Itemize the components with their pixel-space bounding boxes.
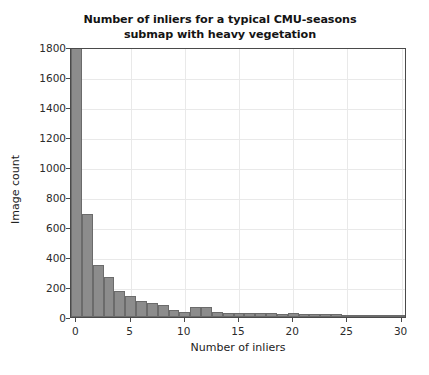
x-axis-tick-label: 30 <box>381 325 421 337</box>
histogram-bar <box>299 314 310 317</box>
x-axis-tick-label: 0 <box>55 325 95 337</box>
histogram-bar <box>234 313 245 317</box>
histogram-bar <box>136 301 147 317</box>
histogram-bar <box>114 291 125 317</box>
histogram-bar <box>244 313 255 317</box>
histogram-bar <box>309 314 320 317</box>
y-axis-tick-label: 1600 <box>8 72 66 84</box>
histogram-bar <box>331 314 342 317</box>
histogram-bar <box>374 315 385 317</box>
x-axis-tick-label: 15 <box>218 325 258 337</box>
histogram-bar <box>158 305 169 317</box>
histogram-bar <box>212 312 223 317</box>
figure-canvas: Number of inliers for a typical CMU-seas… <box>0 0 429 375</box>
histogram-bar <box>266 313 277 317</box>
histogram-bar <box>364 315 375 317</box>
histogram-bar <box>179 312 190 317</box>
histogram-bars <box>71 49 405 317</box>
histogram-bar <box>385 315 396 317</box>
x-axis-tick-mark <box>75 318 76 322</box>
x-axis-tick-label: 20 <box>272 325 312 337</box>
y-axis-tick-label: 0 <box>8 312 66 324</box>
histogram-bar <box>223 313 234 318</box>
histogram-bar <box>190 307 201 318</box>
y-axis-tick-label: 400 <box>8 252 66 264</box>
histogram-bar <box>320 314 331 317</box>
histogram-bar <box>342 315 353 317</box>
y-axis-tick-mark <box>66 318 70 319</box>
histogram-bar <box>104 277 115 317</box>
histogram-bar <box>255 313 266 318</box>
histogram-bar <box>288 313 299 317</box>
y-axis-label: Image count <box>9 130 22 250</box>
x-axis-tick-label: 5 <box>110 325 150 337</box>
plot-area <box>70 48 406 318</box>
x-axis-tick-mark <box>346 318 347 322</box>
histogram-bar <box>125 296 136 317</box>
histogram-bar <box>201 307 212 318</box>
histogram-bar <box>147 303 158 317</box>
histogram-bar <box>82 214 93 318</box>
chart-title-line-2: submap with heavy vegetation <box>60 28 380 43</box>
chart-title: Number of inliers for a typical CMU-seas… <box>60 13 380 42</box>
y-axis-tick-label: 200 <box>8 282 66 294</box>
histogram-bar <box>396 315 406 317</box>
y-axis-tick-label: 1400 <box>8 102 66 114</box>
x-axis-tick-mark <box>130 318 131 322</box>
histogram-bar <box>277 314 288 317</box>
y-axis-tick-label: 1800 <box>8 42 66 54</box>
x-axis-tick-mark <box>401 318 402 322</box>
histogram-bar <box>353 315 364 317</box>
x-axis-label: Number of inliers <box>70 341 406 354</box>
histogram-bar <box>93 265 104 317</box>
x-axis-tick-label: 25 <box>326 325 366 337</box>
x-axis-tick-mark <box>238 318 239 322</box>
histogram-bar <box>71 48 82 317</box>
chart-title-line-1: Number of inliers for a typical CMU-seas… <box>84 13 357 26</box>
x-axis-tick-mark <box>184 318 185 322</box>
histogram-bar <box>169 310 180 317</box>
x-axis-tick-mark <box>292 318 293 322</box>
x-axis-tick-label: 10 <box>164 325 204 337</box>
